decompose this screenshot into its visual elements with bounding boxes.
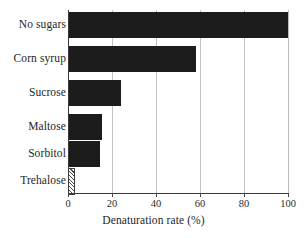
- bar-sorbitol: [68, 141, 100, 167]
- bar-corn-syrup: [68, 46, 196, 72]
- tick-mark-100: [288, 193, 289, 197]
- x-tick-label-20: 20: [107, 198, 118, 209]
- tick-mark-0: [68, 193, 69, 197]
- plot-right-border: [288, 10, 289, 194]
- x-tick-label-40: 40: [151, 198, 162, 209]
- tick-mark-20: [112, 193, 113, 197]
- x-tick-label-100: 100: [280, 198, 296, 209]
- category-label-sorbitol: Sorbitol: [28, 148, 66, 160]
- category-label-no-sugars: No sugars: [19, 19, 66, 31]
- tick-mark-40: [156, 193, 157, 197]
- x-axis-line: [68, 193, 289, 194]
- bar-trehalose: [68, 168, 75, 195]
- category-label-trehalose: Trehalose: [20, 175, 66, 187]
- x-tick-label-0: 0: [65, 198, 70, 209]
- bar-maltose: [68, 114, 102, 140]
- category-label-maltose: Maltose: [28, 121, 66, 133]
- y-axis-line: [68, 10, 69, 194]
- x-tick-label-80: 80: [239, 198, 250, 209]
- category-label-corn-syrup: Corn syrup: [14, 53, 66, 65]
- bar-no-sugars: [68, 12, 288, 38]
- tick-mark-80: [244, 193, 245, 197]
- bar-chart: 0 20 40 60 80 100 No sugars Corn syrup S…: [0, 0, 307, 238]
- tick-mark-60: [200, 193, 201, 197]
- x-axis-title: Denaturation rate (%): [0, 214, 307, 226]
- category-label-sucrose: Sucrose: [29, 87, 66, 99]
- bar-sucrose: [68, 80, 121, 106]
- x-tick-label-60: 60: [195, 198, 206, 209]
